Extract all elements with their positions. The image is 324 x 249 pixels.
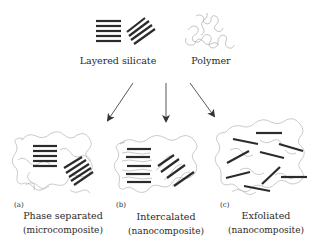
exfoliated-diagram — [215, 119, 307, 195]
arrow-to-c — [190, 83, 214, 116]
arrow-to-a — [108, 83, 133, 120]
source-label-polymer: Polymer — [191, 55, 231, 66]
tag-c: (c) — [220, 201, 230, 209]
composite-diagram: Layered silicate Polymer (a) Phase separ… — [0, 0, 324, 249]
outcome-label-c: Exfoliated — [242, 210, 291, 221]
arrows — [108, 83, 214, 121]
outcome-sublabel-a: (microcomposite) — [23, 225, 103, 235]
phase-separated-diagram — [12, 132, 93, 193]
intercalated-diagram — [114, 136, 197, 193]
tag-a: (a) — [14, 201, 24, 209]
polymer-icon — [185, 13, 234, 48]
outcome-sublabel-b: (nanocomposite) — [128, 226, 204, 236]
outcome-label-b: Intercalated — [136, 211, 195, 222]
layered-silicate-icon — [96, 18, 155, 44]
source-label-layered-silicate: Layered silicate — [80, 55, 157, 66]
outcome-label-a: Phase separated — [23, 210, 103, 221]
outcome-sublabel-c: (nanocomposite) — [228, 225, 304, 235]
tag-b: (b) — [116, 201, 126, 209]
